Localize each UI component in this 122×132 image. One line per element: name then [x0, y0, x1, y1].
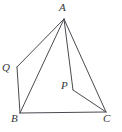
vertex-label-a: A	[59, 2, 66, 13]
segment-A-B	[20, 19, 64, 113]
segment-Q-B	[17, 67, 20, 113]
geometry-figure: AQBPC	[0, 0, 122, 132]
vertex-label-p: P	[61, 80, 68, 91]
vertex-label-q: Q	[2, 62, 10, 73]
segment-B-C	[20, 112, 106, 113]
vertex-label-b: B	[11, 113, 18, 124]
vertex-label-c: C	[103, 113, 110, 124]
segments-group	[17, 19, 106, 113]
segment-A-Q	[17, 19, 64, 67]
